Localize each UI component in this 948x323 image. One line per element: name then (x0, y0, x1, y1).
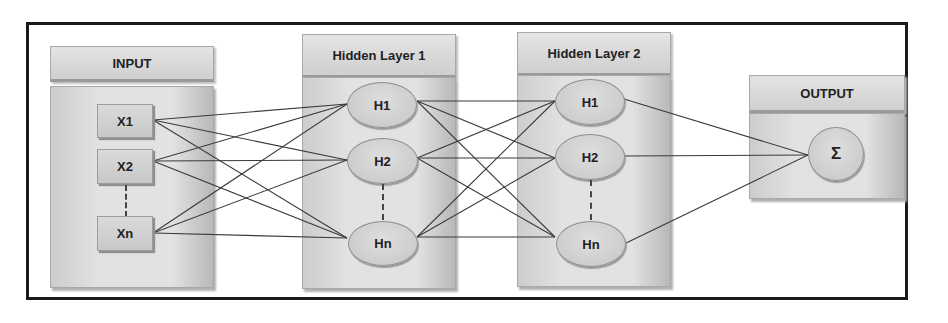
input-node-x1: X1 (97, 104, 153, 138)
hidden1-node-h2: H2 (347, 138, 418, 184)
hidden1-ellipsis-dash (382, 184, 384, 220)
hidden2-node-hn: Hn (556, 221, 626, 267)
hidden2-node-h1: H1 (555, 79, 625, 125)
hidden1-node-hn: Hn (348, 221, 418, 266)
hidden1-node-h1: H1 (347, 82, 417, 128)
input-node-x2: X2 (97, 149, 153, 184)
output-sum-node: Σ (808, 127, 864, 181)
hidden2-ellipsis-dash (590, 180, 592, 220)
input-node-xn: Xn (97, 216, 153, 251)
input-ellipsis-dash (125, 185, 127, 217)
hidden2-node-h2: H2 (555, 134, 625, 180)
